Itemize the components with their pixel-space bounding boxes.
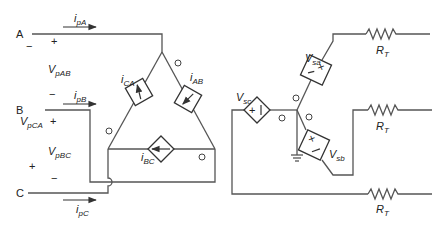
resistor-middle-icon (368, 105, 432, 115)
ground-icon (291, 155, 303, 161)
label-vpbc: VpBC (48, 145, 71, 160)
label-iab: iAB (190, 71, 204, 86)
current-source-ab-icon (174, 85, 201, 112)
wire-phase-sb (297, 110, 306, 130)
label-vpab: VpAB (48, 63, 71, 78)
polarity-dot-ab (175, 60, 181, 66)
polarity-minus-vpbc: − (51, 172, 57, 184)
polarity-dot-bc (199, 154, 205, 160)
resistor-bottom-icon (368, 189, 432, 199)
polarity-minus-a: − (26, 40, 32, 52)
polarity-plus-vpab: + (51, 35, 57, 47)
label-ica: iCA (121, 73, 135, 88)
label-vsb: Vsb (329, 148, 345, 163)
label-vsc: Vsc (236, 91, 251, 106)
voltage-source-sb-icon: × (298, 130, 329, 160)
label-vpca: VpCA (20, 115, 43, 130)
node-label-c: C (16, 187, 24, 199)
wire-phase-sc-left (232, 110, 368, 194)
polarity-plus-vpca: + (50, 115, 56, 127)
polarity-dot-ca (106, 128, 112, 134)
label-rt-middle: RT (376, 120, 390, 135)
label-ipb: ipB (74, 89, 87, 104)
label-rt-top: RT (376, 44, 390, 59)
resistor-top-icon (366, 29, 430, 39)
polarity-minus-vpab: − (49, 88, 55, 100)
label-ipc: ipC (76, 203, 89, 218)
secondary-star-network: + × × (232, 29, 432, 199)
label-ipa: ipA (74, 12, 86, 27)
polarity-dot-sc (279, 115, 285, 121)
wire-phase-b (45, 110, 215, 182)
node-label-a: A (16, 28, 24, 40)
label-rt-bottom: RT (376, 203, 390, 218)
polarity-dot-sb (306, 114, 312, 120)
polarity-plus-vpbc: + (29, 160, 35, 172)
circuit-diagram: A B C ipA ipB ipC iCA iAB iBC VpAB VpCA … (0, 0, 441, 227)
wire-phase-sa-up (322, 34, 366, 60)
wire-phase-sa (297, 80, 311, 110)
polarity-dot-sa (293, 95, 299, 101)
